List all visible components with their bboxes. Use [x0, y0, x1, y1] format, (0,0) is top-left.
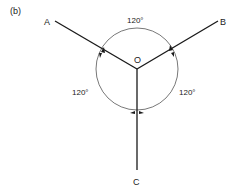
arrow-icon: [171, 52, 174, 57]
arrow-icon: [130, 111, 135, 114]
arrow-icon: [139, 111, 144, 114]
line-OA: [55, 21, 137, 69]
diagram-canvas: (b) A B C O 120° 120° 120°: [0, 0, 232, 189]
arrow-icon: [99, 53, 102, 58]
angle-label-BC: 120°: [179, 88, 196, 97]
panel-label: (b): [10, 6, 21, 16]
point-label-B: B: [220, 17, 226, 27]
point-label-C: C: [133, 177, 140, 187]
angle-label-AC: 120°: [72, 88, 89, 97]
center-label: O: [134, 55, 141, 65]
point-label-A: A: [44, 17, 50, 27]
angle-label-AB: 120°: [127, 16, 144, 25]
